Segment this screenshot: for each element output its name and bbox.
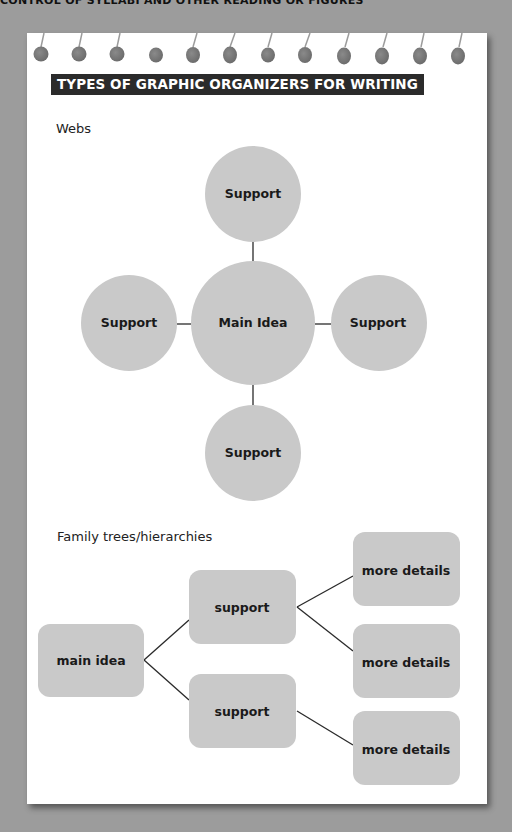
hierarchy-diagram: main idea support support more details m… xyxy=(38,532,460,785)
hierarchy-support-label-1: support xyxy=(215,600,270,615)
hierarchy-detail-label-1: more details xyxy=(362,563,450,578)
web-node-bottom: Support xyxy=(205,405,301,501)
hierarchy-detail-label-3: more details xyxy=(362,742,450,757)
web-node-top-label: Support xyxy=(225,186,282,201)
web-node-bottom-label: Support xyxy=(225,445,282,460)
web-diagram: Support Support Main Idea Support Suppor… xyxy=(81,146,427,501)
hierarchy-detail-box-1: more details xyxy=(353,532,460,606)
web-center-node: Main Idea xyxy=(191,261,315,385)
hierarchy-root-label: main idea xyxy=(56,653,125,668)
hierarchy-support-box-1: support xyxy=(189,570,296,644)
web-center-label: Main Idea xyxy=(219,315,288,330)
web-node-right-label: Support xyxy=(350,315,407,330)
hierarchy-detail-box-2: more details xyxy=(353,624,460,698)
web-node-left: Support xyxy=(81,275,177,371)
hierarchy-support-box-2: support xyxy=(189,674,296,748)
hierarchy-detail-label-2: more details xyxy=(362,655,450,670)
hierarchy-root-box: main idea xyxy=(38,624,144,697)
hierarchy-detail-box-3: more details xyxy=(353,711,460,785)
web-node-left-label: Support xyxy=(101,315,158,330)
web-node-right: Support xyxy=(331,275,427,371)
hierarchy-support-label-2: support xyxy=(215,704,270,719)
organizer-diagrams: Support Support Main Idea Support Suppor… xyxy=(0,0,512,832)
web-node-top: Support xyxy=(205,146,301,242)
